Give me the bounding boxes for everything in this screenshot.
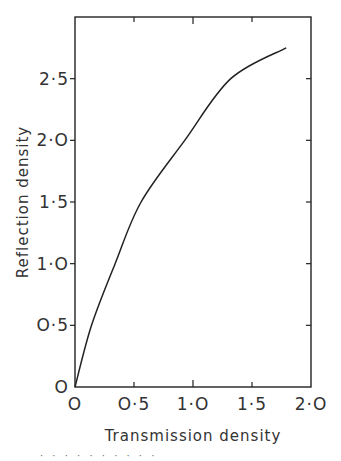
y-tick-label: O xyxy=(55,377,69,397)
y-tick-label: 2·5 xyxy=(39,69,69,89)
data-curve xyxy=(75,48,286,387)
x-axis-title: Transmission density xyxy=(104,427,282,445)
chart: OO·51·O1·52·O OO·51·O1·52·O2·5 Transmiss… xyxy=(0,0,341,461)
x-tick-label: 2·O xyxy=(295,394,328,414)
y-tick-label: O·5 xyxy=(36,315,69,335)
caption-fragment: · · · · · · · · · · xyxy=(40,450,157,461)
y-tick-label: 1·O xyxy=(36,254,69,274)
y-tick-label: 2·O xyxy=(36,130,69,150)
y-axis-title: Reflection density xyxy=(14,126,32,278)
x-tick-label: 1·O xyxy=(177,394,210,414)
x-tick-label: 1·5 xyxy=(237,394,267,414)
x-tick-label: O·5 xyxy=(118,394,151,414)
axis-ticks xyxy=(70,17,311,387)
x-tick-labels: OO·51·O1·52·O xyxy=(68,394,328,414)
y-tick-labels: OO·51·O1·52·O2·5 xyxy=(36,69,69,397)
x-tick-label: O xyxy=(68,394,82,414)
plot-frame xyxy=(75,17,311,387)
y-tick-label: 1·5 xyxy=(39,192,69,212)
